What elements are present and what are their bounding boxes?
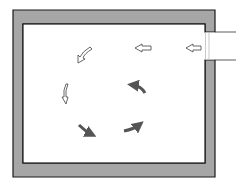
room-walls bbox=[13, 10, 216, 177]
inlet-opening bbox=[203, 33, 216, 60]
room-interior bbox=[23, 24, 205, 163]
inlet-duct bbox=[215, 32, 236, 60]
room-airflow-diagram bbox=[0, 0, 243, 190]
